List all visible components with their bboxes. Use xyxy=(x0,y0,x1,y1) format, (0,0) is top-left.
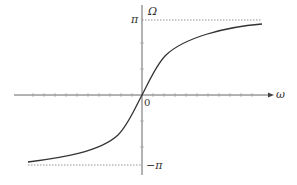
origin-label: 0 xyxy=(144,97,150,108)
phase-curve xyxy=(28,24,262,162)
pi-label: π xyxy=(130,13,139,26)
x-axis-arrow-icon xyxy=(268,93,274,98)
neg-pi-label: −π xyxy=(146,159,163,172)
phase-curve-diagram: π Ω 0 ω −π xyxy=(0,0,297,185)
x-axis-label: ω xyxy=(276,88,285,101)
omega-cap-label: Ω xyxy=(147,5,157,18)
